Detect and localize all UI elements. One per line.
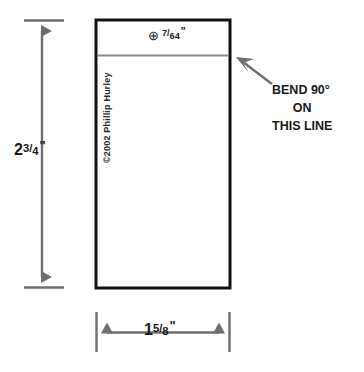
height-dimension-denominator: 4	[32, 145, 38, 157]
width-dimension-label: 1 5/8 "	[144, 322, 176, 338]
height-dimension-whole: 2	[14, 141, 23, 158]
hole-center-crosshair-icon: ⊕	[148, 29, 159, 42]
copyright-notice: ©2002 Phillip Hurley	[103, 72, 112, 163]
width-dimension-whole: 1	[144, 321, 153, 338]
bend-note-line-1: BEND 90°	[272, 82, 332, 100]
part-outline	[96, 20, 230, 288]
width-dimension-unit: "	[169, 318, 175, 333]
bend-note-line-2: ON	[272, 100, 332, 118]
hole-callout-value: 7/64 "	[162, 28, 186, 41]
height-dimension-unit: "	[39, 138, 45, 153]
bend-instruction-note: BEND 90° ON THIS LINE	[272, 82, 332, 135]
hole-callout-unit: "	[181, 25, 186, 37]
hole-callout-denominator: 64	[170, 31, 180, 41]
width-dimension-denominator: 8	[162, 325, 168, 337]
height-dimension-label: 2 3/4 "	[14, 142, 46, 158]
bend-note-leader-line	[243, 62, 272, 84]
hole-callout: ⊕ 7/64 "	[148, 28, 186, 41]
bend-note-line-3: THIS LINE	[272, 118, 332, 136]
drawing-canvas	[0, 0, 364, 372]
technical-drawing: ⊕ 7/64 " 2 3/4 " 1 5/8 " ©2002 Phillip H…	[0, 0, 364, 372]
